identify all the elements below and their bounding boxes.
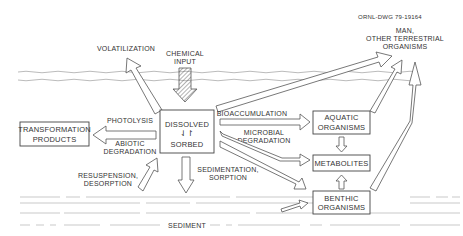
sediment-layer	[20, 197, 460, 225]
abiotic-degradation-label-1: ABIOTIC	[115, 140, 144, 147]
chemical-input-arrow	[173, 68, 197, 102]
svg-text:AQUATIC: AQUATIC	[324, 113, 359, 122]
man-terrestrial-label-1: MAN,	[396, 27, 414, 34]
volatilization-label: VOLATILIZATION	[97, 45, 155, 52]
resuspension-arrow	[138, 158, 158, 191]
chemical-input-label-2: INPUT	[174, 58, 197, 65]
benthic-to-man-arrow	[370, 62, 421, 191]
dissolved-sorbed-node: DISSOLVED ⇃↾ SORBED	[160, 110, 214, 153]
sediment-label: SEDIMENT	[168, 222, 206, 229]
svg-text:TRANSFORMATION: TRANSFORMATION	[18, 125, 91, 134]
transformation-products-node: TRANSFORMATION PRODUCTS	[18, 122, 91, 146]
svg-text:PRODUCTS: PRODUCTS	[33, 135, 77, 144]
svg-text:SORBED: SORBED	[171, 140, 204, 149]
aquatic-organisms-node: AQUATIC ORGANISMS	[313, 111, 370, 134]
svg-text:⇃↾: ⇃↾	[180, 129, 194, 138]
svg-text:ORGANISMS: ORGANISMS	[318, 203, 366, 212]
metabolites-node: METABOLITES	[313, 155, 370, 171]
abiotic-degradation-label-2: DEGRADATION	[103, 148, 156, 155]
benthic-organisms-node: BENTHIC ORGANISMS	[313, 191, 370, 214]
water-surface	[18, 71, 418, 81]
chemical-fate-diagram: ORNL-DWG 79-19164 SEDIMENT VOLATILIZATIO…	[0, 0, 463, 236]
photolysis-label: PHOTOLYSIS	[107, 117, 153, 124]
resuspension-label-2: DESORPTION	[84, 180, 132, 187]
microbial-degradation-label-1: MICROBIAL	[244, 129, 284, 136]
benthic-to-metabolites-arrow	[336, 175, 347, 189]
svg-text:DISSOLVED: DISSOLVED	[165, 120, 210, 129]
sediment-to-benthic-arrow	[281, 200, 308, 212]
sedimentation-label-2: SORPTION	[209, 174, 247, 181]
resuspension-label-1: RESUSPENSION,	[78, 172, 138, 179]
svg-text:BENTHIC: BENTHIC	[324, 194, 359, 203]
dissolved-to-man-arrow	[216, 52, 392, 112]
aquatic-to-metabolites-arrow	[336, 137, 347, 152]
volatilization-arrow	[126, 58, 162, 114]
svg-text:ORGANISMS: ORGANISMS	[318, 123, 366, 132]
drawing-id: ORNL-DWG 79-19164	[358, 14, 422, 20]
dissolved-to-benthic-arrow	[220, 141, 306, 189]
sedimentation-arrow	[178, 157, 194, 193]
aquatic-to-man-arrow	[370, 60, 402, 113]
svg-text:METABOLITES: METABOLITES	[314, 159, 368, 168]
man-terrestrial-label-2: OTHER TERRESTRIAL	[366, 35, 444, 42]
sedimentation-label-1: SEDIMENTATION,	[197, 166, 258, 173]
man-terrestrial-label-3: ORGANISMS	[383, 43, 428, 50]
bioaccumulation-label: BIOACCUMULATION	[217, 110, 288, 117]
chemical-input-label-1: CHEMICAL	[166, 50, 204, 57]
